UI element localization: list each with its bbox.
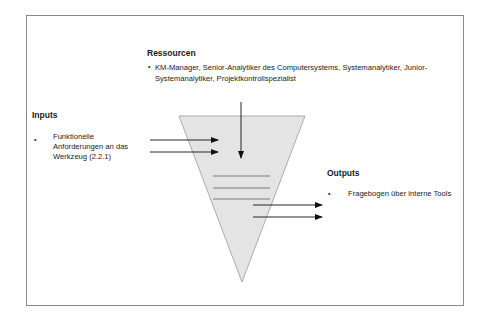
inputs-item-line2: Anforderungen an das [53,142,128,153]
resources-item-line2: Systemanalytiker, Projektkontrollspezial… [155,74,296,85]
resources-item-line1: KM-Manager, Senior-Analytiker des Comput… [155,63,427,74]
inputs-item-line1: Funktionelle [53,132,94,143]
inputs-item-line3: Werkzeug (2.2.1) [53,152,111,163]
inputs-heading: Inputs [32,110,58,120]
outputs-heading: Outputs [327,168,360,178]
outputs-bullet-icon: • [328,190,330,197]
inputs-bullet-icon: • [34,136,36,143]
outputs-item: Fragebogen über interne Tools [348,189,451,200]
resources-bullet-icon: • [148,63,150,70]
resources-heading: Ressourcen [147,48,196,58]
